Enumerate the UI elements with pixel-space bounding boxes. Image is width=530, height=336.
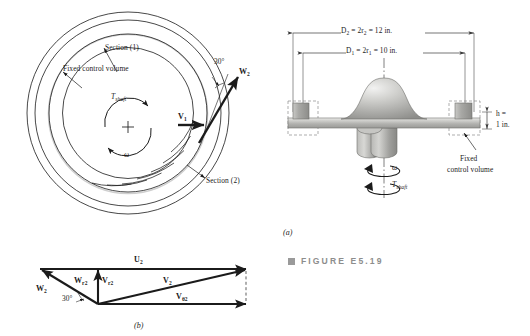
label-angle-30-plan: 30° — [214, 58, 225, 66]
blade — [163, 136, 191, 163]
label-height-line1: h = — [496, 110, 506, 118]
label-vector-vtheta2: Vθ2 — [176, 293, 188, 302]
v1-subscript: 1 — [184, 116, 187, 122]
wr2-subscript: r2 — [82, 280, 87, 286]
torque-section-subscript: shaft — [396, 184, 407, 190]
label-fixed-control-volume-section-line1: Fixed — [460, 155, 477, 163]
panel-letter-a: (a) — [283, 228, 292, 237]
label-section-2: Section (2) — [206, 177, 240, 185]
vector-v2 — [98, 270, 245, 304]
omega-arc-lower — [108, 128, 151, 156]
panel-letter-b: (b) — [134, 321, 143, 330]
label-vector-u2: U2 — [134, 256, 143, 265]
d2-value: 12 in. — [375, 26, 392, 35]
d2-equals: = 2 — [349, 26, 361, 35]
w2-symbol: W — [239, 67, 247, 76]
label-torque-shaft-plan: Tshaft — [111, 93, 126, 101]
v1-symbol: V — [178, 112, 184, 121]
wr2-symbol: W — [74, 276, 82, 285]
label-omega-section: ω — [392, 164, 397, 172]
label-vector-v2-triangle: V2 — [163, 277, 172, 286]
center-plus-mark — [122, 121, 134, 133]
v2-subscript: 2 — [169, 280, 172, 286]
d1-subscript: 1 — [351, 50, 354, 56]
label-vector-v1: V1 — [178, 113, 187, 122]
r2-subscript: 2 — [364, 30, 367, 36]
label-vector-wr2: Wr2 — [74, 277, 88, 286]
w2-tri-subscript: 2 — [44, 288, 47, 294]
rotor-plate — [288, 118, 480, 128]
leader-fixed-control-volume — [63, 72, 82, 88]
label-section-1: Section (1) — [105, 44, 139, 52]
label-angle-30-triangle: 30° — [62, 295, 73, 303]
torque-arc-upper — [105, 98, 148, 127]
label-dimension-d1: D1 = 2r1 = 10 in. — [346, 47, 397, 55]
label-fixed-control-volume: Fixed control volume — [63, 65, 129, 73]
u2-symbol: U — [134, 255, 140, 264]
label-height-line2: 1 in. — [496, 121, 510, 129]
vtheta2-subscript: θ2 — [182, 296, 188, 302]
u2-subscript: 2 — [140, 259, 143, 265]
label-vector-w2-plan: W2 — [239, 68, 250, 77]
label-fixed-control-volume-section-line2: control volume — [447, 166, 493, 174]
blade-block-left — [293, 103, 309, 119]
label-dimension-d2: D2 = 2r2 = 12 in. — [341, 27, 392, 35]
figure-caption: FIGURE E5.19 — [288, 256, 384, 266]
label-vector-vr2: Vr2 — [102, 277, 113, 286]
label-vector-w2-triangle: W2 — [36, 285, 47, 294]
w2-subscript: 2 — [247, 71, 250, 77]
vtheta2-symbol: V — [176, 292, 182, 301]
blade-block-right — [455, 103, 472, 119]
dimension-h — [482, 112, 492, 129]
square-bullet-icon — [288, 258, 295, 265]
vr2-subscript: r2 — [108, 280, 113, 286]
d2-value-sep: = — [367, 26, 375, 35]
d2-subscript: 2 — [346, 30, 349, 36]
label-omega-plan: ω — [124, 151, 129, 159]
label-torque-shaft-section: Tshaft — [392, 181, 407, 189]
figure-caption-text: FIGURE E5.19 — [301, 256, 384, 266]
cone-shroud — [341, 78, 427, 119]
d1-value-sep: = — [372, 46, 380, 55]
d1-value: 10 in. — [380, 46, 397, 55]
d1-equals: = 2 — [354, 46, 366, 55]
h-symbol: h = — [496, 109, 506, 118]
torque-subscript: shaft — [115, 96, 126, 102]
angle-leader-30-triangle — [76, 299, 84, 302]
angle-leader-30 — [212, 77, 219, 86]
vr2-symbol: V — [102, 276, 108, 285]
figure-e5-19: Section (1) Fixed control volume Section… — [0, 0, 530, 336]
w2-tri-symbol: W — [36, 284, 44, 293]
r1-subscript: 1 — [369, 50, 372, 56]
leader-fixed-control-volume-section — [464, 133, 476, 150]
v2-symbol: V — [163, 276, 169, 285]
angle-reference-line — [206, 74, 228, 131]
